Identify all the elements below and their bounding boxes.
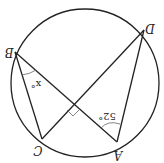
geometry-diagram: B D C A x° 52°	[0, 0, 164, 163]
angle-label-52: 52°	[98, 111, 116, 122]
label-b: B	[4, 45, 14, 59]
label-c: C	[33, 143, 42, 157]
label-a: A	[113, 148, 123, 162]
label-d: D	[145, 21, 156, 35]
angle-label-x: x°	[31, 79, 42, 90]
